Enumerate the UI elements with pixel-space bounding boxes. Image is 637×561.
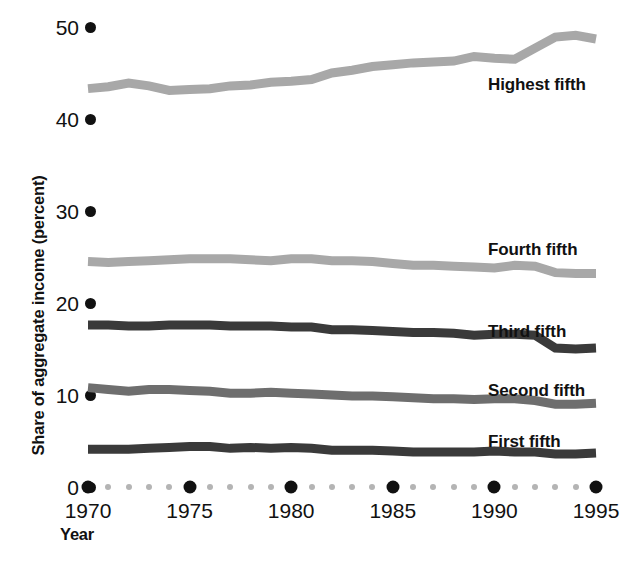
series-label-third-fifth: Third fifth xyxy=(488,322,566,342)
series-line-fourth-fifth xyxy=(88,259,596,274)
series-label-second-fifth: Second fifth xyxy=(488,381,585,401)
series-label-highest-fifth: Highest fifth xyxy=(488,75,586,95)
series-label-first-fifth: First fifth xyxy=(488,432,561,452)
x-axis-title: Year xyxy=(60,525,94,544)
income-share-line-chart: Share of aggregate income (percent) 5040… xyxy=(0,0,637,561)
series-label-fourth-fifth: Fourth fifth xyxy=(488,240,577,260)
